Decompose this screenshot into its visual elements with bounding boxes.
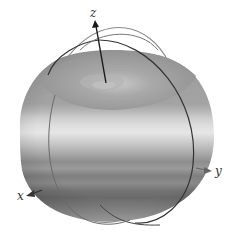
z-axis-arrow-icon: [92, 20, 99, 28]
light-ring-top: [80, 34, 158, 50]
radiation-pattern-figure: z y x: [0, 0, 231, 243]
y-axis-label: y: [214, 164, 222, 178]
x-axis-arrow-icon: [26, 190, 35, 197]
z-axis-label: z: [89, 6, 97, 20]
x-axis-label: x: [17, 189, 24, 203]
